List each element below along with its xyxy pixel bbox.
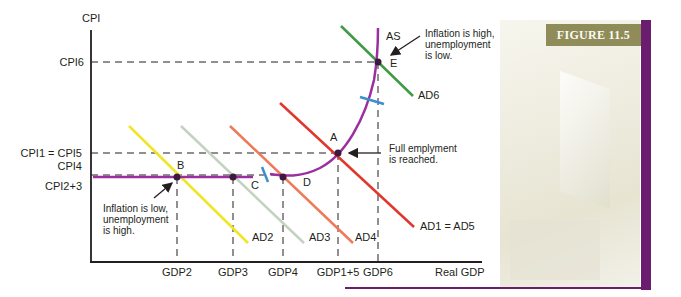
ad1-ad5-label: AD1 = AD5 [420,220,475,232]
ad6-label: AD6 [418,89,439,101]
x-tick-gdp6: GDP6 [363,266,393,278]
x-tick-gdp1-5: GDP1+5 [317,266,360,278]
svg-text:Inflation is low,: Inflation is low, [103,203,168,214]
y-tick-cpi1-cpi5: CPI1 = CPI5 [21,147,82,159]
svg-text:is low.: is low. [425,50,452,61]
svg-text:unemployment: unemployment [103,214,169,225]
break-mark [360,97,384,104]
annotation-full-employment: Full emplyment is reached. [389,143,457,165]
as-label: AS [386,30,401,42]
ad1-ad5-curve [280,103,414,227]
point-d-label: D [303,176,311,188]
ad3-curve [181,126,304,243]
ad2-label: AD2 [252,231,273,243]
svg-text:Inflation is high,: Inflation is high, [425,28,495,39]
point-e-label: E [390,57,397,69]
y-tick-cpi6: CPI6 [60,56,84,68]
ad2-curve [129,126,248,243]
y-axis-title: CPI [82,12,100,24]
equilibrium-points [174,59,382,181]
ad4-label: AD4 [355,231,376,243]
y-tick-cpi4: CPI4 [58,160,82,172]
point-b-label: B [177,159,184,171]
annotation-low-inflation: Inflation is low, unemployment is high. [103,203,169,236]
ad3-label: AD3 [309,231,330,243]
ad4-curve [230,126,353,243]
svg-text:Full emplyment: Full emplyment [389,143,457,154]
x-tick-gdp4: GDP4 [268,266,298,278]
annotation-high-inflation: Inflation is high, unemployment is low. [425,28,495,61]
x-axis-title: Real GDP [435,266,485,278]
arrow-icon [154,183,172,198]
svg-text:is reached.: is reached. [389,154,438,165]
svg-text:unemployment: unemployment [425,39,491,50]
point-a-label: A [330,131,338,143]
x-tick-gdp2: GDP2 [162,266,192,278]
point-c-label: C [251,179,259,191]
ad-as-chart: CPI Real GDP CPI6 CPI1 = CPI5 CPI4 CPI2+… [0,0,681,297]
svg-text:is high.: is high. [103,225,135,236]
x-tick-gdp3: GDP3 [218,266,248,278]
y-tick-cpi2-3: CPI2+3 [45,180,82,192]
